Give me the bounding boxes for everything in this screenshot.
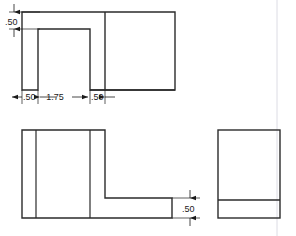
dimension-chain-top-view: .50 1.75 .50 [12,90,115,104]
right-side-view [218,130,280,218]
front-view [22,130,172,218]
dimension-label-top-left-wall: .50 [23,92,36,102]
top-view [22,12,175,90]
right-view-outline [218,130,280,218]
front-view-outline [22,130,172,218]
dimension-label-top-slot-width: 1.75 [46,92,64,102]
dimension-front-flange-thickness: .50 [172,190,200,226]
drawing-canvas: .50 .50 1.75 .50 .50 [0,0,296,236]
dimension-label-top-right-wall: .50 [91,92,104,102]
dimension-label-top-thickness: .50 [5,17,18,27]
engineering-drawing: .50 .50 1.75 .50 .50 [0,0,296,236]
dimension-label-front-flange-thickness: .50 [182,204,195,214]
top-view-outline [22,12,175,90]
